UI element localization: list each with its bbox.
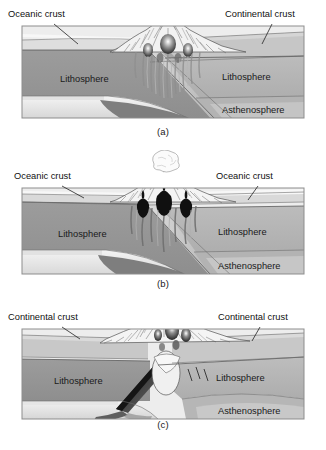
panel-b-diagram: Oceanic crust Oceanic crust Lithosphere … (0, 150, 326, 295)
label-oceanic-crust-left-b: Oceanic crust (14, 171, 71, 181)
label-lithosphere-left-c: Lithosphere (54, 376, 103, 386)
label-oceanic-crust-left-a: Oceanic crust (8, 9, 65, 19)
label-lithosphere-right-c: Lithosphere (216, 373, 265, 383)
label-continental-crust-left-c: Continental crust (8, 312, 78, 322)
panel-c-diagram: Continental crust Continental crust Lith… (0, 295, 326, 435)
caption-panel-a: (a) (0, 126, 326, 137)
label-continental-crust-right-c: Continental crust (218, 312, 288, 322)
label-continental-crust-right-a: Continental crust (225, 9, 295, 19)
caption-panel-c: (c) (0, 419, 326, 430)
figure-convergent-boundaries: Oceanic crust Continental crust Lithosph… (0, 0, 326, 450)
label-asthenosphere-b: Asthenosphere (218, 261, 281, 271)
label-asthenosphere-c: Asthenosphere (218, 406, 281, 416)
caption-panel-b: (b) (0, 278, 326, 289)
panel-a: Oceanic crust Continental crust Lithosph… (0, 0, 326, 150)
panel-c: Continental crust Continental crust Lith… (0, 295, 326, 435)
label-asthenosphere-a: Asthenosphere (222, 105, 285, 115)
label-lithosphere-left-a: Lithosphere (60, 74, 109, 84)
label-lithosphere-right-b: Lithosphere (218, 227, 267, 237)
panel-b: Oceanic crust Oceanic crust Lithosphere … (0, 150, 326, 295)
label-lithosphere-right-a: Lithosphere (222, 72, 271, 82)
label-oceanic-crust-right-b: Oceanic crust (216, 171, 273, 181)
label-lithosphere-left-b: Lithosphere (58, 229, 107, 239)
eruption-cloud-b (153, 150, 180, 172)
